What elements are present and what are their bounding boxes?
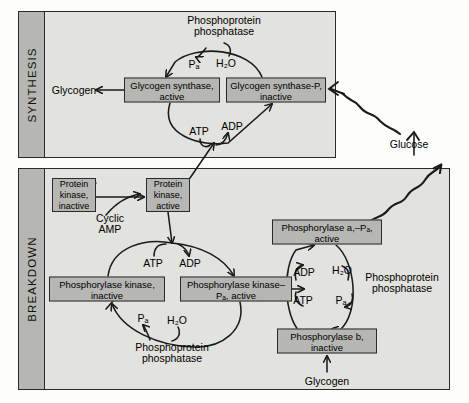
arc-dephospho-phosphorylase-kinase <box>112 302 241 347</box>
arc-phospho-synthase <box>168 103 272 144</box>
box-phosphorylase-kinase-p-active[interactable]: Phosphorylase kinase– Pₐ, active <box>180 277 292 302</box>
box-line-1: Phosphorylase kinase– <box>187 278 285 289</box>
box-glycogen-synthase-active[interactable]: Glycogen synthase, active <box>124 78 220 103</box>
box-line-2: kinase, <box>154 190 183 200</box>
box-glycogen-synthase-p-inactive[interactable]: Glycogen synthase-P, inactive <box>226 78 326 103</box>
arc-atp-in-left <box>154 244 166 256</box>
box-line-2: inactive <box>260 90 292 101</box>
wavy-glucose-signal <box>342 93 400 134</box>
box-line-2: Pₐ, active <box>216 289 256 300</box>
arrow-phosphorylase-kinase-activates-synthase <box>190 143 214 178</box>
pathway-diagram: SYNTHESIS BREAKDOWN <box>0 0 469 403</box>
box-line-2: inactive <box>91 289 123 300</box>
box-protein-kinase-inactive[interactable]: Protein kinase, inactive <box>52 178 96 212</box>
box-phosphorylase-a-p-active[interactable]: Phosphorylase a,–Pₐ, active <box>272 220 382 245</box>
box-line-1: Glycogen synthase-P, <box>230 79 322 90</box>
arc-h2o-in-right <box>342 266 349 280</box>
box-line-1: Protein <box>154 179 183 189</box>
arc-pi-out-left <box>143 325 150 340</box>
box-line-2: active <box>315 232 340 243</box>
box-line-2: active <box>160 90 185 101</box>
box-line-3: active <box>156 201 180 211</box>
wavy-glucose-release <box>367 165 441 224</box>
box-line-1: Glycogen synthase, <box>130 79 213 90</box>
box-phosphorylase-kinase-inactive[interactable]: Phosphorylase kinase, inactive <box>49 277 165 302</box>
arc-dephospho-synthase <box>166 51 262 77</box>
box-line-2: kinase, <box>60 190 89 200</box>
box-line-1: Phosphorylase a,–Pₐ, <box>281 221 372 232</box>
box-phosphorylase-b-inactive[interactable]: Phosphorylase b, inactive <box>277 329 377 354</box>
arrowhead-glucose-signal <box>329 82 338 95</box>
arc-adp-out-right <box>295 265 303 280</box>
box-line-1: Protein <box>60 179 89 189</box>
arrowhead-glucose <box>407 132 419 140</box>
arc-dephospho-phosphorylase <box>332 245 353 330</box>
box-line-2: inactive <box>311 341 343 352</box>
box-protein-kinase-active[interactable]: Protein kinase, active <box>146 178 190 212</box>
arc-h2o-in-top <box>224 43 230 56</box>
arrow-pk-active-catalyzes <box>168 212 172 243</box>
arc-phospho-phosphorylase-kinase <box>108 242 234 276</box>
box-line-1: Phosphorylase kinase, <box>59 278 155 289</box>
box-line-3: inactive <box>59 201 90 211</box>
arc-atp-in-right <box>295 292 303 306</box>
box-line-1: Phosphorylase b, <box>290 330 363 341</box>
arc-h2o-in-left <box>172 327 179 341</box>
